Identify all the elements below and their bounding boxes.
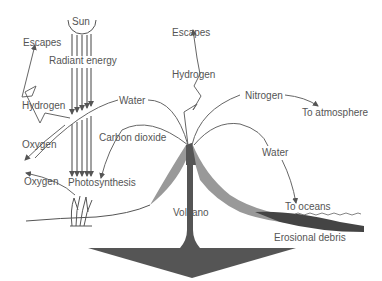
label-to-oceans: To oceans bbox=[285, 202, 331, 212]
label-photosynthesis: Photosynthesis bbox=[68, 178, 136, 188]
water-arc-right bbox=[194, 123, 268, 146]
label-nitrogen: Nitrogen bbox=[245, 91, 283, 101]
label-hydrogen-left: Hydrogen bbox=[22, 101, 65, 111]
label-volcano: Volcano bbox=[173, 208, 209, 218]
label-water-left: Water bbox=[119, 96, 145, 106]
plant-icon bbox=[70, 196, 92, 226]
label-oxygen-1: Oxygen bbox=[22, 140, 56, 150]
label-hydrogen-top: Hydrogen bbox=[172, 70, 215, 80]
label-escapes-left: Escapes bbox=[23, 38, 61, 48]
to-atmosphere-arrow bbox=[285, 95, 318, 106]
ocean-surface bbox=[295, 213, 361, 215]
label-carbon-dioxide: Carbon dioxide bbox=[99, 133, 166, 143]
erosional-debris bbox=[255, 212, 364, 232]
label-erosional-debris: Erosional debris bbox=[274, 233, 346, 243]
label-radiant-energy: Radiant energy bbox=[49, 56, 117, 66]
ground-line bbox=[26, 205, 150, 221]
nitrogen-arc bbox=[192, 95, 240, 145]
to-oceans-arrow bbox=[282, 160, 296, 203]
magma-chamber bbox=[88, 248, 296, 278]
label-water-right: Water bbox=[262, 148, 288, 158]
label-to-atmosphere: To atmosphere bbox=[302, 108, 368, 118]
label-sun: Sun bbox=[72, 17, 90, 27]
label-escapes-top: Escapes bbox=[172, 28, 210, 38]
label-oxygen-2: Oxygen bbox=[24, 177, 58, 187]
